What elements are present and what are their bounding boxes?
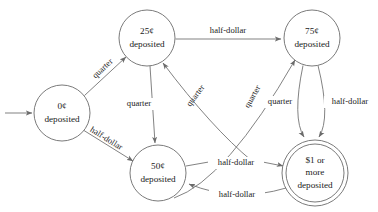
transition-75-to-1-halfdollar-path xyxy=(318,66,325,138)
state-25-cents-label-line2: deposited xyxy=(129,39,165,49)
transition-75-to-1-quarter-label: quarter xyxy=(268,96,292,106)
transition-0-to-50: half-dollar xyxy=(84,124,133,161)
transition-50-to-75: quarter xyxy=(174,60,295,198)
transition-50-to-25-path xyxy=(163,63,252,161)
state-one-dollar-or-more-label-line2: more xyxy=(306,167,325,177)
transition-0-to-25: quarter xyxy=(85,56,127,95)
state-one-dollar-or-more-label-line3: deposited xyxy=(297,180,333,190)
state-machine-diagram: quarter half-dollar half-dollar quarter … xyxy=(0,0,378,212)
state-0-cents[interactable]: 0¢ deposited xyxy=(34,85,90,141)
transition-25-to-50-label: quarter xyxy=(127,98,151,108)
state-75-cents[interactable]: 75¢ deposited xyxy=(284,10,340,66)
state-75-cents-circle[interactable] xyxy=(284,10,340,66)
transition-0-to-50-label: half-dollar xyxy=(89,124,125,152)
transition-75-to-1-halfdollar-label: half-dollar xyxy=(332,96,368,106)
state-one-dollar-or-more-label-line1: $1 or xyxy=(305,155,324,165)
state-75-cents-label-line2: deposited xyxy=(294,39,330,49)
transition-50-to-25: quarter xyxy=(163,63,252,161)
transition-50-to-25-label: quarter xyxy=(184,83,207,109)
transition-50-to-1-label: half-dollar xyxy=(218,157,254,167)
transition-25-to-75-label: half-dollar xyxy=(210,25,246,35)
transition-75-to-1-halfdollar: half-dollar xyxy=(318,66,376,138)
transition-50-to-1: half-dollar xyxy=(186,157,283,169)
transition-25-to-75: half-dollar xyxy=(176,25,282,39)
transition-50-to-75-path xyxy=(174,60,295,198)
state-75-cents-label-line1: 75¢ xyxy=(305,26,319,36)
state-50-cents-circle[interactable] xyxy=(130,145,186,201)
state-0-cents-circle[interactable] xyxy=(34,85,90,141)
state-25-cents-circle[interactable] xyxy=(119,10,175,66)
state-diagram-canvas: quarter half-dollar half-dollar quarter … xyxy=(0,0,378,212)
state-25-cents-label-line1: 25¢ xyxy=(140,26,154,36)
state-50-cents-label-line1: 50¢ xyxy=(151,161,165,171)
transition-0-to-25-label: quarter xyxy=(90,56,115,80)
transition-75-to-1-quarter: quarter xyxy=(264,66,304,138)
transition-25-to-50: quarter xyxy=(124,66,155,143)
state-0-cents-label-line1: 0¢ xyxy=(57,101,67,111)
state-one-dollar-or-more[interactable]: $1 or more deposited xyxy=(282,140,348,206)
transition-75-to-1-quarter-path xyxy=(298,66,304,138)
transition-1-to-50: half-dollar xyxy=(189,184,286,201)
state-50-cents-label-line2: deposited xyxy=(140,174,176,184)
transition-1-to-50-label: half-dollar xyxy=(219,189,255,199)
state-50-cents[interactable]: 50¢ deposited xyxy=(130,145,186,201)
state-0-cents-label-line2: deposited xyxy=(44,114,80,124)
state-25-cents[interactable]: 25¢ deposited xyxy=(119,10,175,66)
transition-50-to-75-label: quarter xyxy=(242,83,263,109)
